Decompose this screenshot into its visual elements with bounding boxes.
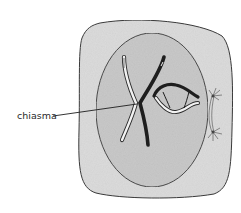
cell-diagram: chiasma	[0, 0, 241, 213]
nucleus	[96, 33, 208, 187]
chiasma-label: chiasma	[17, 110, 57, 121]
